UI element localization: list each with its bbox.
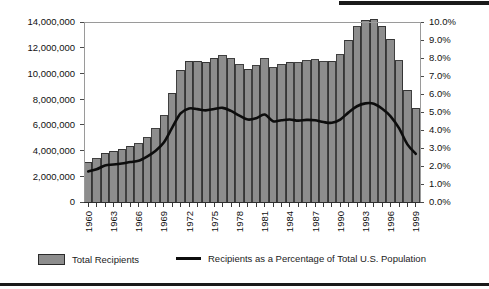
bar: [253, 66, 260, 202]
bar: [244, 69, 251, 202]
bar: [177, 70, 184, 202]
bar: [311, 60, 318, 202]
bar: [412, 108, 419, 202]
legend-label-percentage: Recipients as a Percentage of Total U.S.…: [208, 254, 426, 264]
right-axis-ticks: [420, 22, 424, 202]
left-tick-label: 8,000,000: [33, 94, 75, 105]
x-tick-label: 1987: [310, 211, 321, 232]
x-tick-label: 1960: [83, 211, 94, 232]
bar: [152, 129, 159, 202]
x-tick-label: 1975: [209, 211, 220, 232]
bar: [211, 58, 218, 202]
x-tick-label: 1993: [360, 211, 371, 232]
x-axis-ticks: [88, 202, 416, 207]
right-tick-label: 5.0%: [429, 106, 451, 117]
x-tick-label: 1978: [234, 211, 245, 232]
x-tick-label: 1969: [158, 211, 169, 232]
bar: [101, 153, 108, 202]
bar: [379, 26, 386, 202]
bar-swatch-icon: [38, 254, 65, 265]
axis-spines: [84, 22, 420, 202]
left-tick-label: 2,000,000: [33, 171, 75, 182]
bar: [219, 56, 226, 202]
right-tick-label: 3.0%: [429, 142, 451, 153]
x-tick-label: 1981: [259, 211, 270, 232]
x-tick-label: 1972: [184, 211, 195, 232]
bar: [127, 146, 134, 202]
right-tick-label: 8.0%: [429, 52, 451, 63]
bar: [85, 162, 92, 202]
left-tick-label: 0: [70, 196, 75, 207]
x-tick-label: 1963: [108, 211, 119, 232]
right-tick-label: 7.0%: [429, 70, 451, 81]
left-tick-label: 4,000,000: [33, 145, 75, 156]
legend-item-total-recipients: Total Recipients: [38, 254, 139, 265]
bar-series-total-recipients: [85, 19, 420, 202]
bar: [185, 61, 192, 202]
bar: [286, 62, 293, 202]
legend-label-total-recipients: Total Recipients: [72, 255, 139, 265]
right-tick-label: 9.0%: [429, 34, 451, 45]
chart-figure: 02,000,0004,000,0006,000,0008,000,00010,…: [0, 0, 489, 289]
x-tick-label: 1999: [410, 211, 421, 232]
left-tick-label: 12,000,000: [27, 42, 75, 53]
bar: [118, 149, 125, 202]
bar: [269, 68, 276, 202]
right-tick-label: 0.0%: [429, 196, 451, 207]
right-tick-label: 4.0%: [429, 124, 451, 135]
x-axis-tick-labels: 1960196319661969197219751978198119841987…: [83, 211, 422, 232]
right-tick-label: 10.0%: [429, 16, 456, 27]
right-axis-tick-labels: 0.0%1.0%2.0%3.0%4.0%5.0%6.0%7.0%8.0%9.0%…: [429, 16, 456, 207]
bar: [320, 62, 327, 202]
bar: [194, 61, 201, 202]
x-tick-label: 1990: [335, 211, 346, 232]
x-tick-label: 1966: [133, 211, 144, 232]
bar: [160, 116, 167, 202]
bar: [303, 61, 310, 202]
bar: [227, 59, 234, 202]
left-axis-tick-labels: 02,000,0004,000,0006,000,0008,000,00010,…: [27, 16, 75, 207]
bar: [110, 151, 117, 202]
bar: [93, 159, 100, 202]
chart-plot-area: 02,000,0004,000,0006,000,0008,000,00010,…: [0, 0, 489, 250]
bar: [169, 93, 176, 202]
bar: [278, 65, 285, 202]
right-tick-label: 1.0%: [429, 178, 451, 189]
bar: [337, 55, 344, 202]
bar: [295, 63, 302, 202]
bottom-divider-rule: [0, 283, 489, 286]
left-tick-label: 10,000,000: [27, 68, 75, 79]
line-swatch-icon: [176, 257, 201, 260]
bar: [370, 19, 377, 202]
x-tick-label: 1996: [385, 211, 396, 232]
chart-legend: Total Recipients Recipients as a Percent…: [0, 252, 489, 274]
bar: [236, 65, 243, 202]
bar: [143, 138, 150, 202]
x-tick-label: 1984: [284, 211, 295, 232]
bar: [202, 62, 209, 202]
bar: [345, 40, 352, 202]
left-axis-ticks: [80, 22, 84, 202]
bar: [328, 61, 335, 202]
bar: [362, 20, 369, 202]
right-tick-label: 2.0%: [429, 160, 451, 171]
right-tick-label: 6.0%: [429, 88, 451, 99]
bar: [353, 27, 360, 202]
bar: [135, 144, 142, 202]
left-tick-label: 6,000,000: [33, 119, 75, 130]
legend-item-percentage: Recipients as a Percentage of Total U.S.…: [176, 254, 426, 264]
bar: [261, 59, 268, 202]
left-tick-label: 14,000,000: [27, 16, 75, 27]
